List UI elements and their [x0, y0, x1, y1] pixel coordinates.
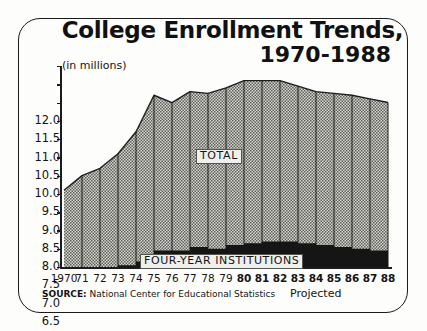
source-prefix: SOURCE: — [42, 289, 87, 299]
x-tick-label: 71 — [75, 272, 88, 284]
y-tick-mark — [57, 249, 62, 250]
x-tick-label: 88 — [381, 272, 396, 284]
projected-note: Projected — [290, 287, 341, 300]
y-tick-mark — [57, 84, 62, 85]
y-tick-mark — [57, 139, 62, 140]
x-tick-label: 83 — [291, 272, 306, 284]
x-tick-label: 74 — [129, 272, 142, 284]
y-tick-mark — [57, 121, 62, 122]
x-tick-label: 1970 — [51, 272, 78, 284]
y-tick-mark — [57, 176, 62, 177]
x-tick-label: 75 — [147, 272, 160, 284]
x-tick-label: 85 — [327, 272, 342, 284]
area-chart-svg — [61, 66, 391, 267]
four-year-series-label: FOUR-YEAR INSTITUTIONS — [140, 254, 303, 269]
x-tick-label: 87 — [363, 272, 378, 284]
x-tick-label: 84 — [309, 272, 324, 284]
x-tick-label: 82 — [273, 272, 288, 284]
source-text: National Center for Educational Statisti… — [90, 289, 276, 299]
x-axis-tick-labels: 1970717273747576777879808182838485868788 — [0, 272, 427, 288]
y-tick-mark — [57, 212, 62, 213]
y-tick-mark — [57, 194, 62, 195]
chart-figure: College Enrollment Trends, 1970-1988 (in… — [0, 0, 427, 331]
x-tick-label: 79 — [219, 272, 232, 284]
chart-title-line-1: College Enrollment Trends, — [60, 18, 405, 43]
y-axis-line — [60, 66, 62, 269]
y-tick-mark — [57, 267, 62, 268]
y-tick-label: 6.5 — [42, 315, 60, 327]
x-tick-label: 76 — [165, 272, 178, 284]
y-tick-mark — [57, 103, 62, 104]
x-tick-label: 86 — [345, 272, 360, 284]
y-tick-mark — [57, 157, 62, 158]
y-tick-mark — [57, 230, 62, 231]
x-tick-label: 78 — [201, 272, 214, 284]
x-tick-label: 72 — [93, 272, 106, 284]
x-tick-label: 80 — [237, 272, 252, 284]
total-series-label: TOTAL — [196, 149, 242, 164]
units-label: (in millions) — [62, 59, 126, 72]
source-note: SOURCE: National Center for Educational … — [42, 289, 275, 299]
x-tick-label: 77 — [183, 272, 196, 284]
x-tick-label: 81 — [255, 272, 270, 284]
plot-area — [61, 66, 391, 267]
x-tick-label: 73 — [111, 272, 124, 284]
